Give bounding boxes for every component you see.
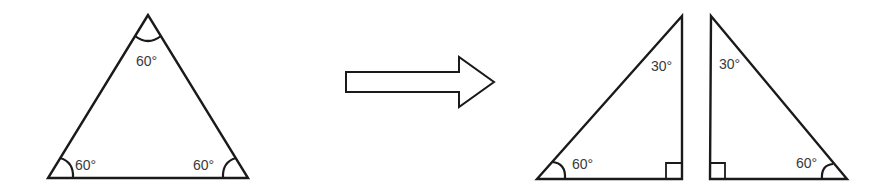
right-triangle-left-outline: [537, 16, 682, 179]
bottom-right-angle-arc: [223, 158, 236, 178]
triangle-split-diagram: 60° 60° 60° 30° 60° 30° 60°: [0, 0, 891, 190]
equilateral-triangle-outline: [48, 15, 248, 178]
left-triangle-30-label: 30°: [651, 58, 672, 74]
right-triangle-right-angle-mark: [710, 163, 725, 179]
top-angle-label: 60°: [136, 53, 157, 69]
right-triangle-right-outline: [710, 16, 847, 179]
bottom-left-angle-label: 60°: [75, 157, 96, 173]
right-triangle-60-label: 60°: [796, 155, 817, 171]
right-arrow-icon: [346, 57, 494, 107]
right-triangle-left: 30° 60°: [537, 16, 682, 179]
left-triangle-60-arc: [552, 162, 565, 179]
left-triangle-60-label: 60°: [572, 156, 593, 172]
right-triangle-60-arc: [822, 164, 833, 179]
bottom-left-angle-arc: [60, 158, 73, 178]
equilateral-triangle: 60° 60° 60°: [48, 15, 248, 178]
right-triangle-right: 30° 60°: [710, 16, 847, 179]
top-angle-arc: [135, 36, 161, 41]
left-triangle-right-angle-mark: [666, 163, 682, 179]
bottom-right-angle-label: 60°: [193, 157, 214, 173]
right-triangle-30-label: 30°: [719, 56, 740, 72]
